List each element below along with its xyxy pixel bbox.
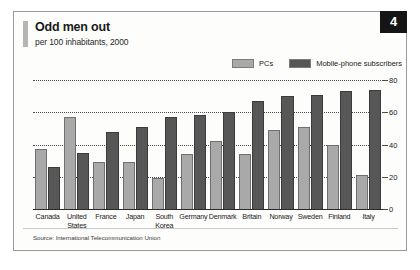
bar-group (354, 80, 383, 209)
source-divider (23, 228, 398, 229)
y-tick-label: 0 (389, 205, 393, 214)
figure-number-badge: 4 (380, 11, 407, 33)
bar-mobile (281, 96, 293, 209)
y-tick-mark (383, 177, 388, 178)
bar-pcs (356, 175, 368, 209)
bar-group (33, 80, 62, 209)
bar-group (62, 80, 91, 209)
bar-mobile (369, 90, 381, 209)
bar-mobile (223, 112, 235, 209)
legend-swatch (289, 59, 311, 68)
y-tick-mark (383, 209, 388, 210)
bar-pcs (35, 149, 47, 209)
legend-label: Mobile-phone subscribers (316, 59, 402, 68)
bar-group (179, 80, 208, 209)
chart-subtitle: per 100 inhabitants, 2000 (35, 36, 128, 48)
bar-group (325, 80, 354, 209)
bar-mobile (252, 101, 264, 209)
bar-group (237, 80, 266, 209)
bar-group (266, 80, 295, 209)
y-tick-mark (383, 112, 388, 113)
bar-pcs (268, 130, 280, 209)
bar-mobile (106, 132, 118, 209)
bar-pcs (123, 162, 135, 209)
legend-label: PCs (259, 59, 273, 68)
bar-mobile (165, 117, 177, 209)
title-block: Odd men out per 100 inhabitants, 2000 (23, 20, 128, 48)
plot-area: 020406080 (33, 80, 383, 209)
chart-legend: PCsMobile-phone subscribers (232, 59, 402, 68)
bar-pcs (298, 127, 310, 209)
y-tick-label: 20 (389, 172, 397, 181)
bar-pcs (93, 162, 105, 209)
bar-group (121, 80, 150, 209)
chart-title: Odd men out (35, 20, 128, 34)
legend-item: PCs (232, 59, 273, 68)
bar-groups (33, 80, 383, 209)
bar-pcs (239, 154, 251, 209)
bar-group (208, 80, 237, 209)
bar-group (91, 80, 120, 209)
y-tick-label: 40 (389, 140, 397, 149)
source-note: Source: International Telecommunication … (33, 234, 160, 241)
gridline (33, 209, 383, 210)
legend-swatch (232, 59, 254, 68)
bar-pcs (210, 141, 222, 209)
bar-pcs (64, 117, 76, 209)
chart-figure: 4 Odd men out per 100 inhabitants, 2000 … (13, 11, 407, 251)
y-tick-label: 80 (389, 76, 397, 85)
title-accent-bar (23, 21, 28, 47)
legend-item: Mobile-phone subscribers (289, 59, 402, 68)
bar-pcs (181, 154, 193, 209)
bar-mobile (136, 127, 148, 209)
bar-group (150, 80, 179, 209)
y-tick-label: 60 (389, 108, 397, 117)
y-tick-mark (383, 80, 388, 81)
bar-mobile (340, 91, 352, 209)
figure-number: 4 (390, 14, 397, 29)
bar-pcs (327, 145, 339, 210)
bar-mobile (48, 167, 60, 209)
bar-group (296, 80, 325, 209)
y-tick-mark (383, 145, 388, 146)
bar-pcs (152, 178, 164, 209)
bar-mobile (77, 153, 89, 209)
bar-mobile (194, 115, 206, 209)
bar-mobile (311, 95, 323, 209)
